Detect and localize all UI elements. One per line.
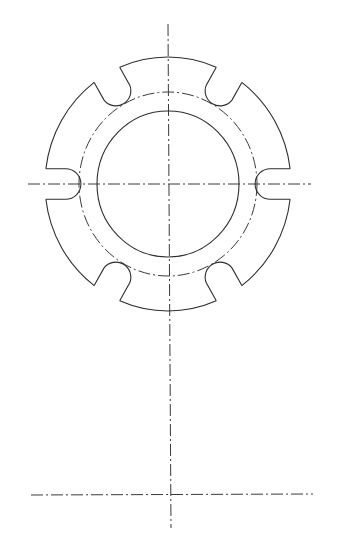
radial-slot-60 xyxy=(205,67,242,106)
radial-slot-300 xyxy=(205,262,242,301)
lower-horizontal-centerline xyxy=(31,494,313,495)
flange-drawing xyxy=(0,0,343,556)
radial-slot-120 xyxy=(94,67,131,106)
radial-slot-240 xyxy=(94,262,131,301)
centerlines xyxy=(28,24,313,528)
